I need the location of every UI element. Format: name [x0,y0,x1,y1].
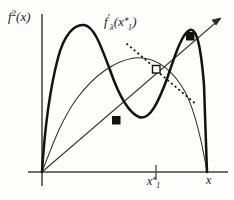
marker-period-two-point [153,66,161,74]
derivative-label-close-paren: ) [132,14,136,29]
diagonal-identity-line [42,18,221,172]
marker-fixed-point-lower [113,117,121,125]
tangent-leader-dotted [127,44,153,66]
x-star-1-label: x⁎1 [147,174,160,190]
diagonal-arrowhead-icon [212,18,221,25]
marker-fixed-point-upper [187,33,195,41]
curve-f [42,58,207,172]
tangent-line-group [127,44,197,105]
y-axis-label-argument: (x) [16,9,30,24]
x-star-1-label-subscript: 1 [156,181,160,190]
derivative-label: f′λ(x⁎1) [104,12,137,32]
curve-f-squared [42,25,207,172]
figure-container: f2(x) f′λ(x⁎1) x⁎1 x [0,0,234,200]
y-axis-label: f2(x) [8,9,30,23]
diagonal-line-segment [42,19,220,172]
x-axis-label: x [206,174,211,186]
